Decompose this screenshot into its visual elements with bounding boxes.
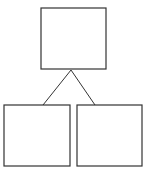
edge-root-right (71, 70, 95, 105)
edge-root-left (43, 70, 71, 105)
tree-diagram (0, 0, 146, 171)
left-child-node (4, 105, 70, 166)
root-node (41, 8, 106, 69)
right-child-node (77, 105, 142, 166)
